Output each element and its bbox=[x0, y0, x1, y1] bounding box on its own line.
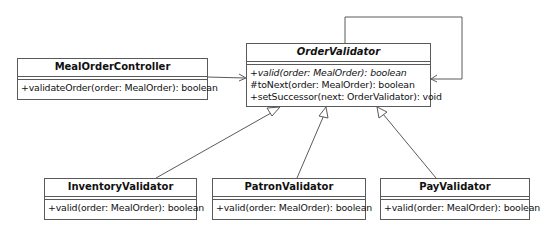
operation: +validateOrder(order: MealOrder): boolea… bbox=[21, 82, 207, 94]
operations-compartment: +validateOrder(order: MealOrder): boolea… bbox=[18, 80, 207, 96]
association-arrow bbox=[207, 74, 246, 81]
class-name: OrderValidator bbox=[247, 44, 430, 61]
operation: #toNext(order: MealOrder): boolean bbox=[250, 79, 430, 91]
operation: +setSuccessor(next: OrderValidator): voi… bbox=[250, 91, 430, 103]
class-name: PayValidator bbox=[381, 179, 529, 196]
operation: +valid(order: MealOrder): boolean bbox=[216, 202, 365, 214]
operation: +valid(order: MealOrder): boolean bbox=[384, 202, 529, 214]
class-pay-validator[interactable]: PayValidator +valid(order: MealOrder): b… bbox=[380, 178, 530, 220]
class-patron-validator[interactable]: PatronValidator +valid(order: MealOrder)… bbox=[212, 178, 366, 220]
class-name: MealOrderController bbox=[18, 59, 207, 76]
operations-compartment: +valid(order: MealOrder): boolean #toNex… bbox=[247, 65, 430, 105]
class-name: PatronValidator bbox=[213, 179, 365, 196]
uml-class-diagram: MealOrderController +validateOrder(order… bbox=[0, 0, 544, 236]
class-meal-order-controller[interactable]: MealOrderController +validateOrder(order… bbox=[17, 58, 208, 100]
operations-compartment: +valid(order: MealOrder): boolean bbox=[45, 200, 196, 216]
generalization-arrow-pay bbox=[377, 107, 436, 178]
class-order-validator[interactable]: OrderValidator +valid(order: MealOrder):… bbox=[246, 43, 431, 107]
class-inventory-validator[interactable]: InventoryValidator +valid(order: MealOrd… bbox=[44, 178, 197, 220]
generalization-arrow-inventory bbox=[156, 107, 280, 178]
operation: +valid(order: MealOrder): boolean bbox=[250, 67, 430, 79]
generalization-arrow-patron bbox=[297, 107, 328, 178]
operation: +valid(order: MealOrder): boolean bbox=[48, 202, 196, 214]
operations-compartment: +valid(order: MealOrder): boolean bbox=[213, 200, 365, 216]
operations-compartment: +valid(order: MealOrder): boolean bbox=[381, 200, 529, 216]
class-name: InventoryValidator bbox=[45, 179, 196, 196]
